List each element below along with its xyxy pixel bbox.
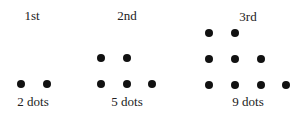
dot-icon [97,54,105,62]
dot-icon [205,81,213,89]
dot-icon [282,81,290,89]
dot-icon [123,80,131,88]
term-title: 1st [24,9,39,22]
term-caption: 5 dots [111,95,142,108]
dot-icon [205,55,213,63]
dot-icon [231,81,239,89]
dot-icon [205,29,213,37]
term-title: 3rd [239,10,256,23]
dot-icon [123,54,131,62]
term-caption: 9 dots [232,95,263,108]
dot-icon [97,80,105,88]
dot-icon [148,80,156,88]
dot-icon [257,81,265,89]
dot-pattern-diagram: 1st 2 dots 2nd 5 dots 3rd 9 dots [0,0,301,116]
dot-icon [257,55,265,63]
dot-icon [231,55,239,63]
term-caption: 2 dots [17,95,48,108]
dot-icon [17,80,25,88]
dot-icon [43,80,51,88]
term-title: 2nd [117,9,137,22]
dot-icon [231,29,239,37]
